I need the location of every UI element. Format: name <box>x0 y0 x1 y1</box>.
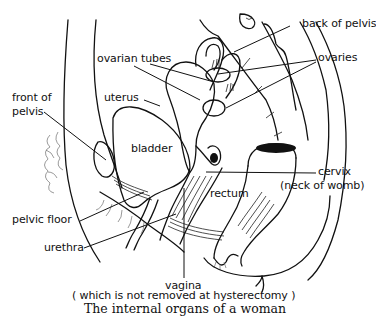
label-uterus: uterus <box>104 92 139 104</box>
cervix-pointer <box>206 172 316 173</box>
spine-contour <box>262 22 308 140</box>
uterus-pointer <box>144 100 160 106</box>
label-cervix-note: (neck of womb) <box>280 180 364 192</box>
back-of-pelvis-pointer <box>234 26 290 52</box>
ovaries-pointer-1 <box>218 60 316 74</box>
back-contour-1 <box>300 22 329 180</box>
anal-contour <box>214 254 238 265</box>
pelvic-floor-pointer <box>80 192 144 221</box>
rectum-front-wall <box>214 166 248 258</box>
figure-caption: The internal organs of a woman <box>0 301 370 316</box>
ovarian-tubes-pointer-1 <box>134 66 200 100</box>
label-rectum: rectum <box>210 188 249 200</box>
front-of-pelvis-pointer <box>44 112 106 160</box>
bladder-shape <box>113 107 190 208</box>
label-pelvic-floor: pelvic floor <box>12 214 72 226</box>
anal-hair <box>214 262 226 270</box>
label-cervix: cervix <box>318 166 351 178</box>
labia-contour <box>100 192 184 252</box>
cervix-os <box>210 153 218 163</box>
ovarian-tube-right <box>222 54 240 98</box>
vagina-front-wall <box>160 172 190 240</box>
ovary-lower <box>203 100 225 116</box>
sacrum-top <box>240 14 255 28</box>
pelvic-floor-bands <box>168 218 224 240</box>
pelvic-floor-front-bands <box>112 176 152 200</box>
ovarian-tube-inner <box>206 44 220 70</box>
label-front-of-pelvis-line1: front of <box>12 92 51 104</box>
colon-lumen <box>256 143 296 153</box>
label-front-of-pelvis-line2: pelvis <box>12 106 44 118</box>
pubic-hair <box>45 132 64 193</box>
label-bladder: bladder <box>131 143 172 155</box>
label-ovaries: ovaries <box>318 52 357 64</box>
sacrum-top-hatch <box>246 18 252 20</box>
label-ovarian-tubes: ovarian tubes <box>97 53 171 65</box>
vaginal-hatch <box>172 176 212 222</box>
pubic-bone <box>94 142 114 177</box>
abdominal-wall-contour <box>94 20 122 188</box>
label-back-of-pelvis: back of pelvis <box>302 18 376 30</box>
label-urethra: urethra <box>44 242 84 254</box>
